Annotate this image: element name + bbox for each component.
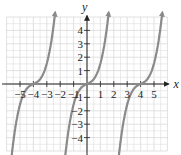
y-tick-label: 1 <box>78 65 84 77</box>
x-tick-label: −4 <box>28 88 40 100</box>
y-tick-label: 2 <box>78 51 84 63</box>
y-tick-label: −2 <box>71 105 83 117</box>
x-axis-label: x <box>172 77 179 91</box>
tangent-graph: xy −5−4−3−2−112345−4−3−2−11234 <box>0 0 181 155</box>
y-tick-label: 3 <box>78 38 84 50</box>
x-tick-label: 3 <box>124 88 130 100</box>
x-tick-label: −2 <box>54 88 66 100</box>
y-tick-label: −1 <box>71 91 83 103</box>
x-tick-label: −3 <box>41 88 53 100</box>
x-tick-label: 5 <box>151 88 157 100</box>
x-tick-label: 2 <box>111 88 117 100</box>
x-tick-label: −5 <box>14 88 26 100</box>
y-axis-label: y <box>81 0 88 14</box>
y-tick-label: −3 <box>71 118 83 130</box>
y-tick-label: −4 <box>71 132 83 144</box>
x-tick-label: 1 <box>98 88 104 100</box>
y-tick-label: 4 <box>78 24 84 36</box>
x-tick-label: 4 <box>138 88 144 100</box>
